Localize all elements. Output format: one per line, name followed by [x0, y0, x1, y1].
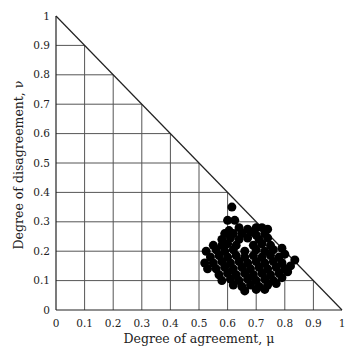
x-tick-label: 0.4 [162, 317, 179, 329]
data-point [252, 223, 261, 232]
x-axis-label: Degree of agreement, μ [124, 331, 275, 346]
x-tick-label: 0.5 [191, 317, 208, 329]
y-tick-label: 0.9 [33, 39, 50, 51]
data-point [272, 279, 281, 288]
data-point [240, 286, 249, 295]
x-tick-label: 0.2 [105, 317, 122, 329]
y-axis-label: Degree of disagreement, ν [11, 81, 26, 250]
x-tick-label: 0.8 [276, 317, 293, 329]
data-point [252, 285, 261, 294]
x-tick-label: 0.9 [305, 317, 322, 329]
data-point [243, 225, 252, 234]
data-point [235, 223, 244, 232]
data-point [260, 285, 269, 294]
data-point [263, 225, 272, 234]
x-tick-label: 1 [339, 317, 346, 329]
x-tick-label: 0.1 [76, 317, 93, 329]
y-tick-label: 0.1 [33, 274, 50, 286]
y-tick-label: 0.7 [33, 98, 50, 110]
data-point [243, 233, 252, 242]
x-tick-label: 0.7 [248, 317, 265, 329]
x-tick-label: 0.3 [133, 317, 150, 329]
y-tick-label: 1 [43, 10, 50, 22]
y-tick-label: 0.5 [33, 157, 50, 169]
y-tick-label: 0.4 [33, 186, 50, 198]
data-point [280, 250, 289, 259]
y-tick-label: 0 [43, 304, 50, 316]
x-tick-labels: 00.10.20.30.40.50.60.70.80.91 [53, 317, 346, 329]
data-point [209, 241, 218, 250]
x-tick-label: 0 [53, 317, 60, 329]
data-point [229, 281, 238, 290]
y-tick-label: 0.3 [33, 215, 50, 227]
data-point [217, 276, 226, 285]
y-tick-label: 0.8 [33, 68, 50, 80]
scatter-chart: 00.10.20.30.40.50.60.70.80.91 00.10.20.3… [0, 0, 360, 359]
y-tick-labels: 00.10.20.30.40.50.60.70.80.91 [33, 10, 50, 316]
y-tick-label: 0.2 [33, 245, 50, 257]
data-point [227, 203, 236, 212]
y-tick-label: 0.6 [33, 127, 50, 139]
data-point [225, 226, 234, 235]
x-tick-label: 0.6 [219, 317, 236, 329]
